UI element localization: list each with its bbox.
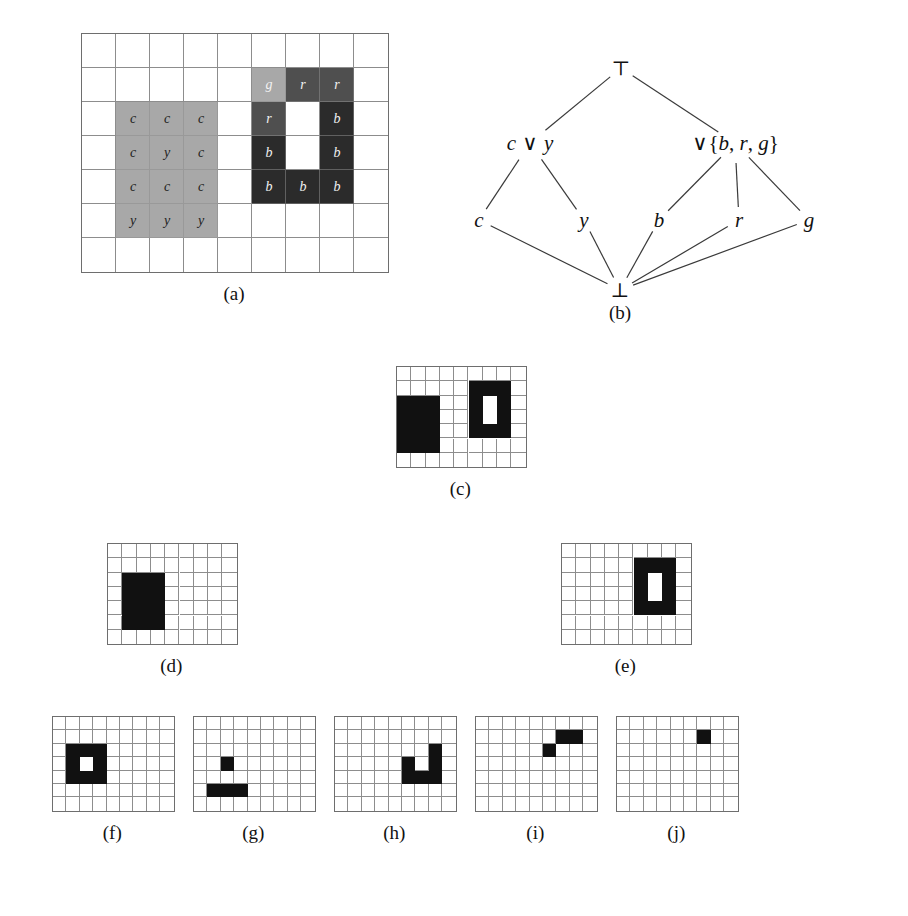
grid-cell (630, 717, 643, 730)
grid-cell (207, 757, 220, 770)
grid-cell (53, 744, 66, 757)
grid-cell (503, 771, 516, 784)
grid-cell (711, 784, 724, 797)
grid-cell (151, 544, 165, 558)
grid-cell (375, 744, 388, 757)
hasse-edge-vbrg-b (668, 157, 721, 211)
grid-cell (570, 784, 583, 797)
grid-cell (605, 544, 619, 558)
grid-cell-overlay (184, 102, 218, 136)
grid-cell-overlay (150, 68, 184, 102)
grid-cell (160, 797, 173, 810)
grid-cell (583, 771, 596, 784)
grid-cell (630, 797, 643, 810)
grid-cell (397, 381, 411, 395)
grid-cell-overlay (218, 102, 252, 136)
grid-cell (221, 771, 234, 784)
grid-cell (711, 730, 724, 743)
grid-cell (657, 730, 670, 743)
grid-cell (617, 797, 630, 810)
hasse-edge-vbrg-g (749, 157, 800, 210)
grid-cell (497, 367, 511, 381)
hasse-node-g: g (804, 208, 815, 233)
grid-cell (511, 453, 525, 467)
grid-cell (397, 367, 411, 381)
grid-cell (221, 797, 234, 810)
grid-cell (440, 367, 454, 381)
grid-cell (234, 744, 247, 757)
grid-cell (711, 744, 724, 757)
grid-cell-overlay (354, 102, 388, 136)
grid-cell (543, 730, 556, 743)
grid-cell (562, 616, 576, 630)
grid-cell (194, 573, 208, 587)
grid-cell (274, 717, 287, 730)
grid-cell (53, 730, 66, 743)
grid-cell (120, 771, 133, 784)
grid-cell (180, 573, 194, 587)
panel-b-hasse-diagram: ⊤c ∨ y∨{b, r, g}cybrg⊥ (430, 45, 870, 320)
grid-cell (648, 630, 662, 644)
grid-cell (348, 784, 361, 797)
panel-e-caption: (e) (561, 655, 690, 677)
grid-cell-overlay (320, 204, 354, 238)
grid-cell (676, 616, 690, 630)
grid-cell (222, 573, 236, 587)
grid-cell (208, 573, 222, 587)
grid-cell (147, 744, 160, 757)
grid-cell (489, 757, 502, 770)
panel-h (334, 716, 455, 810)
grid-cell (697, 744, 710, 757)
grid-cell-overlay (252, 34, 286, 68)
grid-cell (605, 630, 619, 644)
grid-cell (562, 587, 576, 601)
grid-cell (617, 717, 630, 730)
grid-cell (108, 573, 122, 587)
grid-cell (583, 784, 596, 797)
grid-cell (80, 717, 93, 730)
grid-cell (570, 797, 583, 810)
grid-cell (711, 717, 724, 730)
grid-cell (362, 771, 375, 784)
grid-cell-overlay (286, 238, 320, 272)
grid-cell (676, 558, 690, 572)
grid-cell (207, 797, 220, 810)
filled-region (402, 757, 415, 784)
grid-cell (483, 439, 497, 453)
grid-cell (483, 367, 497, 381)
pixel-grid (334, 716, 457, 812)
grid-cell (476, 744, 489, 757)
grid-cell (222, 616, 236, 630)
panel-j-caption: (j) (616, 822, 737, 844)
grid-cell (375, 717, 388, 730)
grid-cell (301, 757, 314, 770)
grid-cell (591, 544, 605, 558)
grid-cell-overlay (184, 170, 218, 204)
grid-cell (93, 797, 106, 810)
grid-cell (66, 784, 79, 797)
grid-cell (194, 544, 208, 558)
grid-cell (222, 630, 236, 644)
grid-cell-overlay (184, 34, 218, 68)
grid-cell (208, 558, 222, 572)
grid-cell (137, 558, 151, 572)
grid-cell (634, 544, 648, 558)
filled-region (697, 730, 710, 743)
grid-cell (221, 744, 234, 757)
grid-cell (151, 558, 165, 572)
grid-cell (362, 744, 375, 757)
grid-cell (634, 630, 648, 644)
hasse-edge-top-vbrg (633, 76, 719, 132)
grid-cell (469, 453, 483, 467)
grid-cell (426, 381, 440, 395)
grid-cell (671, 730, 684, 743)
grid-cell (107, 771, 120, 784)
grid-cell (66, 717, 79, 730)
grid-cell (591, 558, 605, 572)
grid-cell (160, 771, 173, 784)
grid-cell (147, 797, 160, 810)
grid-cell-overlay (354, 238, 388, 272)
grid-cell (194, 558, 208, 572)
grid-cell (657, 797, 670, 810)
grid-cell (697, 797, 710, 810)
